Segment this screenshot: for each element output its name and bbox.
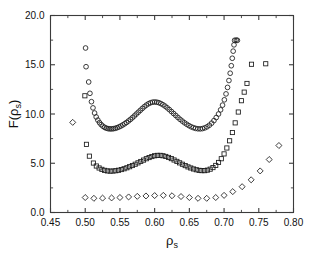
y-tick-label: 15.0 <box>25 59 45 70</box>
marker-circle <box>84 64 89 69</box>
marker-circle <box>220 103 225 108</box>
marker-circle <box>224 92 229 97</box>
marker-diamond <box>134 193 140 199</box>
data-markers <box>70 38 282 202</box>
marker-square <box>133 162 137 166</box>
marker-diamond <box>169 193 175 199</box>
x-tick-label: 0.65 <box>180 217 200 228</box>
marker-square <box>249 62 253 66</box>
marker-square <box>239 99 243 103</box>
marker-square <box>172 158 176 162</box>
x-tick-label: 0.80 <box>284 217 304 228</box>
marker-square <box>222 152 226 156</box>
marker-square <box>245 81 249 85</box>
x-tick-label: 0.70 <box>214 217 234 228</box>
marker-diamond <box>126 194 132 200</box>
marker-square <box>141 158 145 162</box>
marker-circle <box>232 43 237 48</box>
marker-diamond <box>195 195 201 201</box>
marker-square <box>180 162 184 166</box>
y-tick-label: 10.0 <box>25 109 45 120</box>
marker-square <box>183 164 187 168</box>
marker-diamond <box>276 143 282 149</box>
figure-container: 0.450.500.550.600.650.700.750.800.05.010… <box>0 0 311 257</box>
marker-square <box>178 161 182 165</box>
marker-diamond <box>152 193 158 199</box>
marker-diamond <box>109 195 115 201</box>
marker-square <box>225 146 229 150</box>
marker-diamond <box>230 189 236 195</box>
marker-square <box>264 62 268 66</box>
x-axis-title: ρs <box>166 233 178 250</box>
marker-square <box>130 163 134 167</box>
marker-diamond <box>160 192 166 198</box>
marker-circle <box>228 71 233 76</box>
x-tick-label: 0.45 <box>41 217 61 228</box>
marker-square <box>139 159 143 163</box>
marker-diamond <box>266 157 272 163</box>
marker-circle <box>83 46 88 51</box>
marker-diamond <box>186 195 192 201</box>
series-circles <box>83 38 240 131</box>
marker-diamond <box>117 195 123 201</box>
marker-square <box>186 165 190 169</box>
marker-circle <box>229 63 234 68</box>
marker-diamond <box>100 195 106 201</box>
x-tick-label: 0.75 <box>249 217 269 228</box>
marker-diamond <box>221 192 227 198</box>
marker-square <box>128 165 132 169</box>
marker-diamond <box>178 194 184 200</box>
marker-circle <box>227 78 232 83</box>
x-tick-label: 0.60 <box>145 217 165 228</box>
marker-square <box>84 142 88 146</box>
marker-circle <box>218 108 223 113</box>
y-axis-title: F(ρs) <box>6 100 23 129</box>
marker-diamond <box>257 168 263 174</box>
marker-circle <box>91 106 96 111</box>
marker-diamond <box>239 184 245 190</box>
marker-circle <box>88 91 93 96</box>
marker-diamond <box>70 119 76 125</box>
marker-diamond <box>91 195 97 201</box>
marker-square <box>228 139 232 143</box>
marker-square <box>175 159 179 163</box>
marker-circle <box>225 85 230 90</box>
marker-circle <box>231 49 236 54</box>
marker-square <box>87 154 91 158</box>
marker-square <box>242 90 246 94</box>
marker-square <box>169 157 173 161</box>
marker-square <box>136 161 140 165</box>
marker-square <box>83 94 87 98</box>
marker-diamond <box>143 193 149 199</box>
scatter-plot: 0.450.500.550.600.650.700.750.800.05.010… <box>0 0 311 257</box>
y-tick-label: 20.0 <box>25 10 45 21</box>
marker-square <box>230 130 234 134</box>
marker-diamond <box>213 195 219 201</box>
marker-square <box>108 169 112 173</box>
x-tick-label: 0.55 <box>110 217 130 228</box>
marker-square <box>144 157 148 161</box>
marker-circle <box>86 80 91 85</box>
y-tick-label: 0.0 <box>31 207 45 218</box>
marker-diamond <box>248 177 254 183</box>
marker-diamond <box>204 195 210 201</box>
marker-circle <box>89 99 94 104</box>
marker-square <box>233 121 237 125</box>
marker-diamond <box>82 195 88 201</box>
marker-circle <box>230 56 235 61</box>
marker-square <box>236 110 240 114</box>
y-tick-label: 5.0 <box>31 158 45 169</box>
marker-circle <box>222 97 227 102</box>
axis-tick-labels: 0.450.500.550.600.650.700.750.800.05.010… <box>25 10 304 227</box>
x-tick-label: 0.50 <box>75 217 95 228</box>
marker-square <box>91 161 95 165</box>
